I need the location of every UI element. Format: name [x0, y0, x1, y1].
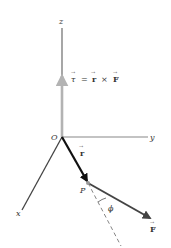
x-axis: [22, 137, 62, 210]
f-vector-label: → F: [150, 219, 156, 234]
z-axis-label: z: [58, 17, 64, 26]
force-vector: [88, 183, 150, 218]
angle-phi-label: ϕ: [108, 204, 114, 213]
r-symbol: r: [80, 148, 85, 158]
angle-phi-arc: [98, 198, 106, 202]
r-eq-symbol: r: [92, 74, 97, 84]
x-axis-label: x: [16, 209, 21, 218]
position-vector: [62, 137, 87, 181]
tau-symbol: τ: [71, 75, 76, 84]
cross-sign: ×: [101, 75, 108, 84]
f-symbol: F: [150, 224, 156, 234]
torque-cross-product-diagram: z y x O P ϕ → τ = → r × → F → r → F: [0, 0, 171, 248]
equals-sign: =: [81, 75, 88, 84]
point-p-dot: [86, 181, 90, 185]
point-p-label: P: [79, 186, 86, 195]
r-vector-label: → r: [79, 143, 85, 158]
y-axis-label: y: [149, 133, 155, 142]
f-eq-symbol: F: [113, 74, 119, 84]
origin-label: O: [51, 133, 58, 142]
torque-equation: → τ = → r × → F: [71, 69, 119, 84]
